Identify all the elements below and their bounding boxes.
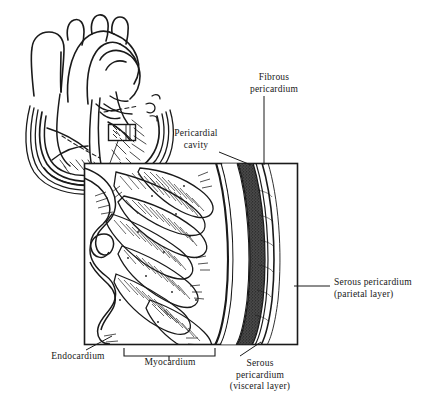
label-serous-pericardium-visceral: Serous pericardium (visceral layer)	[210, 358, 310, 393]
anatomical-figure	[0, 0, 434, 405]
label-pericardial-cavity: Pericardial cavity	[150, 128, 242, 151]
label-myocardium: Myocardium	[134, 357, 206, 369]
label-serous-pericardium-parietal: Serous pericardium (parietal layer)	[334, 277, 434, 300]
label-endocardium: Endocardium	[42, 351, 114, 363]
magnified-wall-box	[84, 163, 298, 354]
label-fibrous-pericardium: Fibrous pericardium	[228, 72, 320, 95]
